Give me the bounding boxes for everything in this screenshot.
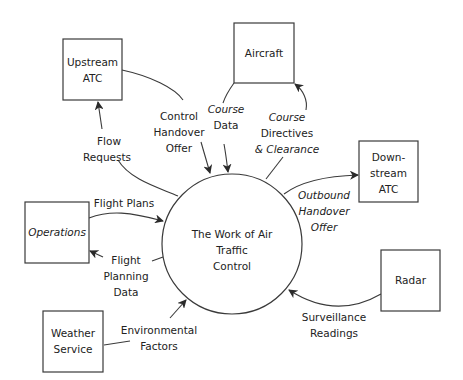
flow-label-environmental-factors: Environmental Factors xyxy=(121,324,197,352)
process-bubble: The Work of Air Traffic Control xyxy=(162,174,302,314)
flow-label-line: Data xyxy=(113,286,138,298)
flow-line-environmental-factors xyxy=(104,341,130,345)
flow-arrow-flow-requests xyxy=(98,102,102,129)
entity-label-line-1: Down- xyxy=(372,151,406,163)
flow-arrow-course-data xyxy=(224,144,228,172)
entity-label-line-2: ATC xyxy=(83,72,103,84)
flow-label-line: Handover xyxy=(298,205,350,217)
flow-label-line: Handover xyxy=(153,126,205,138)
flow-label-flow-requests: Flow Requests xyxy=(83,135,131,163)
flow-arrow-control-handover-offer xyxy=(201,142,210,173)
flow-label-line: Requests xyxy=(83,151,131,163)
flow-label-flight-planning-data: Flight Planning Data xyxy=(103,254,148,298)
flow-label-line: Course xyxy=(269,111,306,123)
entity-label-line-1: Upstream xyxy=(67,56,118,68)
entity-label-line-3: ATC xyxy=(379,183,399,195)
process-label-line-1: The Work of Air xyxy=(191,228,273,240)
entity-operations: Operations xyxy=(25,202,89,263)
flow-label-line: Planning xyxy=(103,270,148,282)
entity-radar: Radar xyxy=(381,250,440,311)
flow-label-line: Directives xyxy=(261,127,314,139)
flow-line-flow-requests xyxy=(118,160,178,196)
flow-arrow-flight-plans xyxy=(89,213,163,221)
entity-label-line-2: stream xyxy=(370,167,407,179)
flow-arrow-surveillance-readings xyxy=(289,290,381,306)
flow-arrow-environmental-factors xyxy=(170,300,186,318)
flow-label-line: Offer xyxy=(166,142,193,154)
flow-label-line: Factors xyxy=(140,340,178,352)
entity-upstream-atc: Upstream ATC xyxy=(63,39,122,100)
flow-line-flight-planning-data xyxy=(152,257,163,261)
flow-label-surveillance-readings: Surveillance Readings xyxy=(302,311,366,339)
entity-aircraft: Aircraft xyxy=(234,23,294,83)
flow-label-course-directives: Course Directives & Clearance xyxy=(255,111,319,155)
entity-weather-service: Weather Service xyxy=(43,311,103,372)
flow-label-control-handover-offer: Control Handover Offer xyxy=(153,110,205,154)
flow-label-outbound-handover-offer: Outbound Handover Offer xyxy=(298,189,350,233)
entity-label-line-2: Service xyxy=(54,343,93,355)
flow-label-line: Control xyxy=(160,110,198,122)
flow-label-line: Data xyxy=(213,119,238,131)
entity-label-line-1: Radar xyxy=(395,274,427,286)
flow-label-line: Environmental xyxy=(121,324,197,336)
entity-label-line-1: Weather xyxy=(51,327,96,339)
flow-line-control-handover-offer xyxy=(122,70,183,100)
flow-label-flight-plans: Flight Plans xyxy=(94,197,154,209)
entity-label-line-1: Aircraft xyxy=(245,47,283,59)
flow-arrow-course-directives xyxy=(295,84,306,110)
flow-label-line: Course xyxy=(208,103,245,115)
flow-line-course-data xyxy=(223,83,234,103)
flow-label-line: Offer xyxy=(311,221,338,233)
flow-line-course-directives xyxy=(266,157,283,179)
flow-label-course-data: Course Data xyxy=(208,103,245,131)
process-label-line-3: Control xyxy=(213,260,251,272)
context-diagram: The Work of Air Traffic Control Upstream… xyxy=(0,0,463,380)
flow-label-line: & Clearance xyxy=(255,143,319,155)
entity-label-line-1: Operations xyxy=(28,226,86,238)
flow-label-line: Outbound xyxy=(298,189,350,201)
flow-label-line: Flight xyxy=(111,254,140,266)
process-label-line-2: Traffic xyxy=(215,244,248,256)
entity-downstream-atc: Down- stream ATC xyxy=(359,141,418,202)
flow-label-line: Flight Plans xyxy=(94,197,154,209)
flow-label-line: Readings xyxy=(310,327,358,339)
flow-arrow-flight-planning-data xyxy=(90,251,103,257)
flow-label-line: Flow xyxy=(97,135,121,147)
flow-label-line: Surveillance xyxy=(302,311,366,323)
